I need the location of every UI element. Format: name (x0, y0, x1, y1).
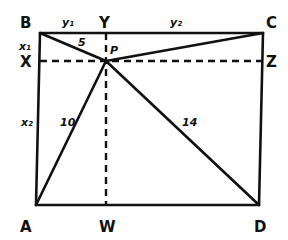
label-a: A (20, 218, 32, 236)
label-z: Z (266, 53, 277, 71)
label-c: C (266, 14, 277, 32)
label-x2: x₂ (20, 116, 33, 129)
segment-ap (36, 61, 106, 205)
side-cd (259, 33, 263, 205)
label-ap-length: 10 (60, 116, 76, 129)
label-y2: y₂ (170, 16, 182, 29)
label-bp-length: 5 (78, 36, 86, 49)
label-x1: x₁ (18, 40, 31, 53)
label-y: Y (98, 14, 111, 32)
label-d: D (254, 218, 266, 236)
label-b: B (20, 14, 31, 32)
label-dp-length: 14 (182, 116, 197, 129)
label-w: W (99, 218, 116, 236)
segment-dp (106, 61, 259, 205)
label-y1: y₁ (62, 16, 74, 29)
rectangle-diagram: B C A D Y W X Z P 5 10 14 y₁ y₂ x₁ x₂ (0, 0, 288, 240)
segment-cp (106, 33, 263, 61)
label-x: X (20, 53, 32, 71)
label-p: P (110, 44, 118, 57)
segment-bp (40, 33, 106, 61)
side-ab (36, 33, 40, 205)
